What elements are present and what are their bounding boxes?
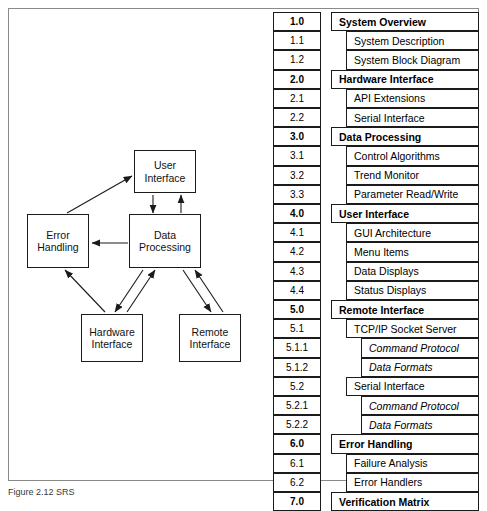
outline-row-number: 6.2 (273, 473, 321, 492)
figure-frame: UserInterfaceErrorHandlingDataProcessing… (8, 8, 479, 481)
outline-row-number: 6.0 (273, 434, 321, 453)
outline-row[interactable]: 5.2.2Data Formats (271, 415, 480, 434)
outline-row-title: Menu Items (346, 242, 479, 261)
outline-row-title: Hardware Interface (331, 70, 479, 89)
outline-row-title: Data Formats (361, 415, 479, 434)
outline-row-title: Verification Matrix (331, 492, 479, 511)
diagram-node-hardware-interface[interactable]: HardwareInterface (81, 314, 143, 362)
outline-row-title: Control Algorithms (346, 146, 479, 165)
outline-row[interactable]: 1.0System Overview (271, 12, 480, 31)
outline-row[interactable]: 2.0Hardware Interface (271, 70, 480, 89)
outline-row-title: Command Protocol (361, 396, 479, 415)
outline-row[interactable]: 5.1.1Command Protocol (271, 338, 480, 357)
outline-row-title: GUI Architecture (346, 223, 479, 242)
outline-row-title: Serial Interface (346, 108, 479, 127)
diagram-node-label: Interface (92, 338, 133, 351)
outline-row[interactable]: 6.0Error Handling (271, 434, 480, 453)
outline-row-number: 4.0 (273, 204, 321, 223)
outline-row[interactable]: 4.4Status Displays (271, 281, 480, 300)
outline-row-number: 6.1 (273, 454, 321, 473)
outline-row[interactable]: 3.0Data Processing (271, 127, 480, 146)
outline-row[interactable]: 7.0Verification Matrix (271, 492, 480, 511)
outline-row[interactable]: 5.1TCP/IP Socket Server (271, 319, 480, 338)
diagram-node-error-handling[interactable]: ErrorHandling (27, 214, 89, 268)
outline-row-title: Status Displays (346, 281, 479, 300)
outline-row-title: Data Formats (361, 358, 479, 377)
outline-row[interactable]: 5.2Serial Interface (271, 377, 480, 396)
diagram-node-remote-interface[interactable]: RemoteInterface (179, 314, 241, 362)
diagram-node-data-processing[interactable]: DataProcessing (129, 214, 201, 268)
arrow-hardwareinterface-to-dataprocessing (127, 270, 155, 312)
outline-row[interactable]: 5.0Remote Interface (271, 300, 480, 319)
outline-row-title: API Extensions (346, 89, 479, 108)
outline-row[interactable]: 3.1Control Algorithms (271, 146, 480, 165)
diagram-node-label: Remote (192, 326, 229, 339)
outline-row-title: System Overview (331, 12, 479, 31)
arrow-hardwareinterface-to-userinterface (67, 176, 132, 213)
outline-row[interactable]: 5.1.2Data Formats (271, 358, 480, 377)
outline-row-title: Error Handlers (346, 473, 479, 492)
outline-row-title: User Interface (331, 204, 479, 223)
arrow-remoteinterface-to-dataprocessing (195, 270, 223, 312)
outline-row-title: Command Protocol (361, 338, 479, 357)
outline-row-title: Data Processing (331, 127, 479, 146)
outline-row-number: 5.2.2 (273, 415, 321, 434)
outline-row[interactable]: 1.2System Block Diagram (271, 50, 480, 69)
outline-row-title: Error Handling (331, 434, 479, 453)
outline-row-number: 2.1 (273, 89, 321, 108)
outline-row[interactable]: 4.3Data Displays (271, 262, 480, 281)
diagram-node-label: Error (46, 229, 69, 242)
outline-row-number: 2.0 (273, 70, 321, 89)
outline-row[interactable]: 6.2Error Handlers (271, 473, 480, 492)
diagram-node-label: Handling (37, 241, 78, 254)
outline-row-number: 5.1.2 (273, 358, 321, 377)
outline-row-number: 3.0 (273, 127, 321, 146)
outline-row-number: 5.0 (273, 300, 321, 319)
outline-row-title: Remote Interface (331, 300, 479, 319)
outline-row-number: 3.3 (273, 185, 321, 204)
outline-row[interactable]: 4.1GUI Architecture (271, 223, 480, 242)
outline-row-number: 2.2 (273, 108, 321, 127)
outline-row-number: 1.1 (273, 31, 321, 50)
outline-row-number: 4.3 (273, 262, 321, 281)
outline-row-number: 7.0 (273, 492, 321, 511)
outline-row[interactable]: 4.0User Interface (271, 204, 480, 223)
diagram-node-label: Processing (139, 241, 191, 254)
arrow-dataprocessing-to-remoteinterface (183, 270, 211, 312)
outline-row-title: TCP/IP Socket Server (346, 319, 479, 338)
outline-row-number: 5.1 (273, 319, 321, 338)
outline-row-title: Trend Monitor (346, 166, 479, 185)
diagram-node-label: Data (154, 229, 176, 242)
diagram-node-label: Interface (145, 172, 186, 185)
diagram-node-label: User (154, 159, 176, 172)
outline-row-title: Serial Interface (346, 377, 479, 396)
outline-row-number: 1.2 (273, 50, 321, 69)
outline-row[interactable]: 4.2Menu Items (271, 242, 480, 261)
software-architecture-block-diagram: UserInterfaceErrorHandlingDataProcessing… (9, 9, 271, 482)
outline-row[interactable]: 3.3Parameter Read/Write (271, 185, 480, 204)
outline-row[interactable]: 2.1API Extensions (271, 89, 480, 108)
outline-row-number: 4.2 (273, 242, 321, 261)
outline-row-title: Failure Analysis (346, 454, 479, 473)
outline-row[interactable]: 3.2Trend Monitor (271, 166, 480, 185)
outline-row[interactable]: 6.1Failure Analysis (271, 454, 480, 473)
outline-row-title: System Description (346, 31, 479, 50)
arrow-hardwareinterface-to-errorhandling (65, 270, 105, 312)
outline-row-title: Parameter Read/Write (346, 185, 479, 204)
outline-row-title: System Block Diagram (346, 50, 479, 69)
outline-row-title: Data Displays (346, 262, 479, 281)
outline-row[interactable]: 2.2Serial Interface (271, 108, 480, 127)
outline-row-number: 3.1 (273, 146, 321, 165)
figure-caption: Figure 2.12 SRS (8, 487, 75, 497)
outline-row-number: 1.0 (273, 12, 321, 31)
diagram-node-label: Interface (190, 338, 231, 351)
outline-row-number: 5.2.1 (273, 396, 321, 415)
outline-row[interactable]: 1.1System Description (271, 31, 480, 50)
outline-row-number: 5.2 (273, 377, 321, 396)
outline-row-number: 4.4 (273, 281, 321, 300)
outline-row-number: 3.2 (273, 166, 321, 185)
outline-row-number: 5.1.1 (273, 338, 321, 357)
diagram-node-user-interface[interactable]: UserInterface (134, 150, 196, 193)
outline-row[interactable]: 5.2.1Command Protocol (271, 396, 480, 415)
srs-requirements-outline: 1.0System Overview1.1System Description1… (271, 9, 480, 482)
